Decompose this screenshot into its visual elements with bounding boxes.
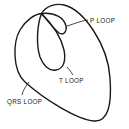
t-loop xyxy=(37,14,64,71)
qrs-loop-leader xyxy=(22,82,29,95)
t-loop-label: T LOOP xyxy=(59,77,84,84)
vectorcardiogram-diagram: P LOOP T LOOP QRS LOOP xyxy=(0,0,129,129)
t-loop-leader xyxy=(67,67,73,75)
qrs-loop-label: QRS LOOP xyxy=(7,98,42,106)
p-loop-leader xyxy=(67,20,88,26)
p-loop-label: P LOOP xyxy=(90,17,115,24)
